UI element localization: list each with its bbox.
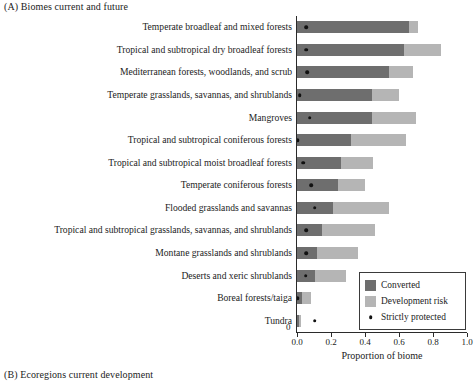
stacked-bar: [297, 315, 301, 327]
chart-row: Temperate grasslands, savannas, and shru…: [297, 84, 467, 107]
legend-dot-icon: [365, 312, 376, 323]
legend-swatch-converted: [365, 280, 376, 291]
bar-segment-development-risk: [299, 315, 301, 327]
strictly-protected-marker: [305, 251, 309, 255]
x-axis-line: [296, 332, 467, 333]
strictly-protected-marker: [305, 25, 309, 29]
legend-item-strictly-protected: Strictly protected: [365, 309, 461, 325]
chart-row: Tropical and subtropical coniferous fore…: [297, 129, 467, 152]
chart-row: Montane grasslands and shrublands: [297, 242, 467, 265]
y-axis-zero-label: 0: [286, 322, 291, 332]
stacked-bar: [297, 179, 365, 191]
bar-segment-development-risk: [389, 66, 413, 78]
stacked-bar: [297, 66, 413, 78]
legend-item-development-risk: Development risk: [365, 293, 461, 309]
strictly-protected-marker: [304, 274, 308, 278]
stacked-bar: [297, 112, 416, 124]
panel-a-title: (A) Biomes current and future: [4, 1, 128, 12]
chart-row: Mangroves: [297, 106, 467, 129]
bar-segment-development-risk: [338, 179, 365, 191]
category-label: Tropical and subtropical dry broadleaf f…: [117, 45, 292, 55]
bar-segment-development-risk: [372, 112, 416, 124]
bar-segment-development-risk: [322, 224, 376, 236]
bar-segment-development-risk: [315, 270, 346, 282]
chart-row: Flooded grasslands and savannas: [297, 197, 467, 220]
bar-segment-converted: [297, 134, 351, 146]
x-axis-tick-label: 0.0: [291, 337, 302, 347]
bar-segment-converted: [297, 21, 409, 33]
category-label: Tropical and subtropical grasslands, sav…: [54, 226, 292, 236]
bar-segment-development-risk: [409, 21, 418, 33]
chart-row: Temperate broadleaf and mixed forests: [297, 16, 467, 39]
strictly-protected-marker: [308, 116, 312, 120]
chart-row: Temperate coniferous forests: [297, 174, 467, 197]
bar-segment-converted: [297, 66, 389, 78]
category-label: Mediterranean forests, woodlands, and sc…: [120, 68, 292, 78]
category-label: Deserts and xeric shrublands: [181, 271, 292, 281]
legend-label-development-risk: Development risk: [381, 296, 448, 306]
chart-row: Tropical and subtropical moist broadleaf…: [297, 151, 467, 174]
x-axis-tick-label: 1.0: [461, 337, 472, 347]
chart-row: Mediterranean forests, woodlands, and sc…: [297, 61, 467, 84]
strictly-protected-marker: [305, 48, 309, 52]
legend-label-strictly-protected: Strictly protected: [381, 312, 446, 322]
bar-segment-development-risk: [333, 202, 389, 214]
legend-label-converted: Converted: [381, 280, 420, 290]
stacked-bar: [297, 157, 374, 169]
chart-legend: Converted Development risk Strictly prot…: [359, 272, 466, 330]
strictly-protected-marker: [301, 161, 305, 165]
category-label: Temperate broadleaf and mixed forests: [142, 22, 292, 32]
category-label: Flooded grasslands and savannas: [165, 203, 292, 213]
legend-item-converted: Converted: [365, 277, 461, 293]
panel-b-title: (B) Ecoregions current development: [4, 369, 153, 380]
bar-segment-converted: [297, 89, 372, 101]
stacked-bar: [297, 21, 418, 33]
stacked-bar: [297, 44, 442, 56]
stacked-bar: [297, 224, 375, 236]
category-label: Montane grasslands and shrublands: [155, 248, 292, 258]
x-axis-tick-label: 0.8: [427, 337, 438, 347]
y-axis-line: [296, 16, 297, 333]
x-axis-tick-label: 0.4: [359, 337, 370, 347]
strictly-protected-marker: [305, 71, 309, 75]
legend-swatch-development-risk: [365, 296, 376, 307]
strictly-protected-marker: [313, 206, 317, 210]
category-label: Boreal forests/taiga: [217, 293, 292, 303]
stacked-bar: [297, 89, 399, 101]
bar-segment-development-risk: [341, 157, 373, 169]
category-label: Tropical and subtropical coniferous fore…: [128, 135, 292, 145]
category-label: Tropical and subtropical moist broadleaf…: [108, 158, 292, 168]
strictly-protected-marker: [298, 93, 302, 97]
category-label: Temperate grasslands, savannas, and shru…: [107, 90, 292, 100]
stacked-bar: [297, 202, 389, 214]
stacked-bar: [297, 134, 406, 146]
category-label: Temperate coniferous forests: [181, 180, 292, 190]
bar-segment-development-risk: [351, 134, 405, 146]
bar-segment-development-risk: [404, 44, 441, 56]
bar-segment-converted: [297, 224, 322, 236]
x-axis-title: Proportion of biome: [297, 350, 467, 361]
bar-segment-development-risk: [372, 89, 399, 101]
strictly-protected-marker: [305, 229, 309, 233]
chart-row: Tropical and subtropical dry broadleaf f…: [297, 39, 467, 62]
strictly-protected-marker: [310, 183, 314, 187]
x-axis-tick-label: 0.6: [393, 337, 404, 347]
bar-segment-converted: [297, 44, 404, 56]
strictly-protected-marker: [313, 319, 317, 323]
category-label: Mangroves: [249, 113, 292, 123]
x-axis-tick-label: 0.2: [325, 337, 336, 347]
chart-row: Tropical and subtropical grasslands, sav…: [297, 219, 467, 242]
bar-segment-development-risk: [302, 292, 311, 304]
bar-segment-converted: [297, 179, 338, 191]
bar-segment-development-risk: [317, 247, 358, 259]
